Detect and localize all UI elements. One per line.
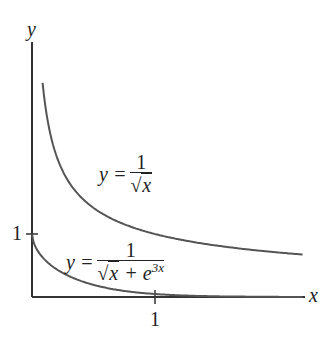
- label-numerator: 1: [136, 152, 146, 172]
- label-lhs: y =: [66, 251, 93, 274]
- curve-inverse-sqrt: [43, 83, 303, 255]
- radical-icon: √: [97, 262, 108, 284]
- label-numerator: 1: [126, 240, 136, 260]
- curve-label-inverse-sqrt: y = 1 √x: [99, 152, 152, 197]
- radical-icon: √: [130, 174, 141, 196]
- label-denominator-b: + e: [124, 262, 151, 284]
- x-tick-label: 1: [150, 308, 160, 331]
- label-exponent: 3x: [152, 260, 164, 275]
- chart-canvas: [0, 0, 330, 338]
- label-denominator-a: x: [108, 261, 119, 284]
- label-lhs: y =: [99, 163, 126, 186]
- x-axis-label: x: [309, 284, 318, 307]
- label-denominator: x: [141, 173, 152, 196]
- curve-label-inverse-sqrt-plus-exp: y = 1 √x + e3x: [66, 240, 164, 285]
- y-axis-label: y: [27, 18, 36, 41]
- y-tick-label: 1: [12, 222, 22, 245]
